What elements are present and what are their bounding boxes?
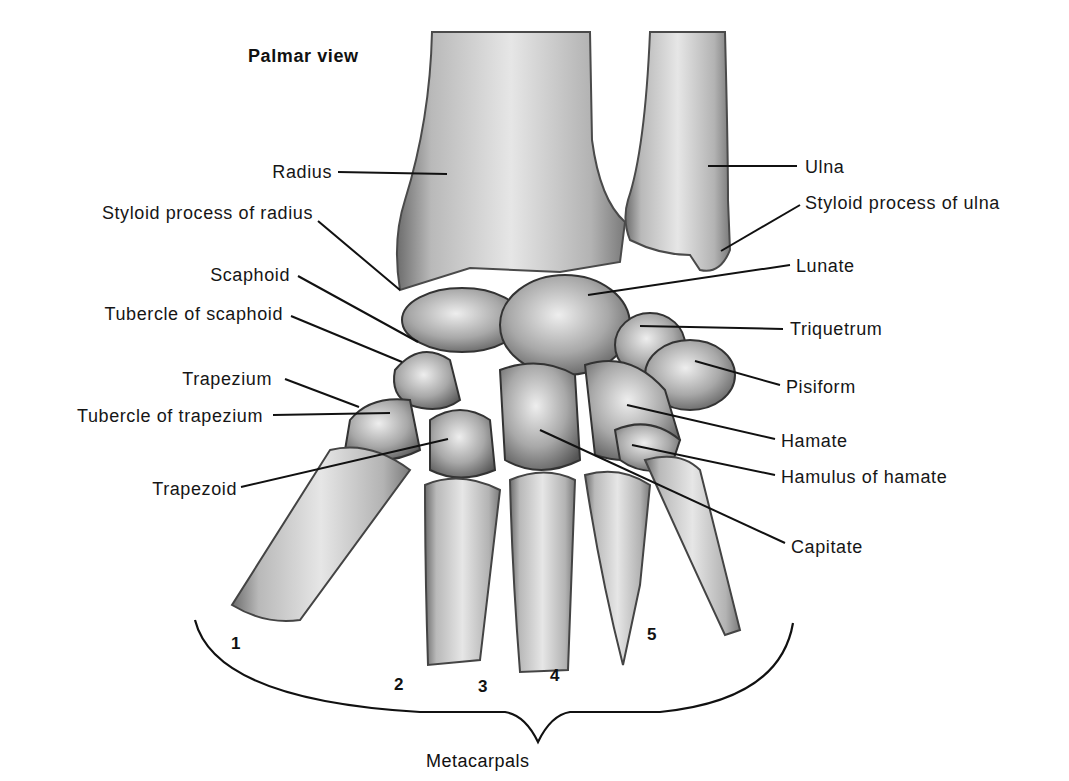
metacarpal-1 xyxy=(232,448,410,622)
label-trapezium: Trapezium xyxy=(182,370,272,388)
label-ulna: Ulna xyxy=(805,158,844,176)
label-styloid-process-of-radius: Styloid process of radius xyxy=(102,204,313,222)
metacarpal-2 xyxy=(425,479,500,665)
metacarpals-bracket xyxy=(195,620,793,742)
label-trapezoid: Trapezoid xyxy=(152,480,237,498)
metacarpal-number-5: 5 xyxy=(647,626,656,643)
metacarpal-3 xyxy=(510,473,575,673)
label-triquetrum: Triquetrum xyxy=(790,320,882,338)
radius-bone xyxy=(397,32,625,290)
label-pisiform: Pisiform xyxy=(786,378,856,396)
metacarpal-number-4: 4 xyxy=(550,667,559,684)
label-tubercle-of-trapezium: Tubercle of trapezium xyxy=(77,407,263,425)
view-title: Palmar view xyxy=(248,46,359,67)
ulna-bone xyxy=(625,32,730,271)
bone-illustration xyxy=(0,0,1069,781)
label-hamulus-of-hamate: Hamulus of hamate xyxy=(781,468,947,486)
label-tubercle-of-scaphoid: Tubercle of scaphoid xyxy=(105,305,283,323)
label-capitate: Capitate xyxy=(791,538,863,556)
label-styloid-process-of-ulna: Styloid process of ulna xyxy=(805,194,1000,212)
metacarpal-5 xyxy=(645,457,740,635)
metacarpal-number-2: 2 xyxy=(394,676,403,693)
metacarpal-number-1: 1 xyxy=(231,635,240,652)
label-hamate: Hamate xyxy=(781,432,848,450)
label-scaphoid: Scaphoid xyxy=(210,266,290,284)
metacarpal-number-3: 3 xyxy=(478,678,487,695)
metacarpal-4 xyxy=(585,472,650,665)
label-lunate: Lunate xyxy=(796,257,855,275)
wrist-anatomy-figure: Palmar view Radius Styloid process of ra… xyxy=(0,0,1069,781)
label-radius: Radius xyxy=(272,163,332,181)
label-metacarpals: Metacarpals xyxy=(426,752,530,770)
